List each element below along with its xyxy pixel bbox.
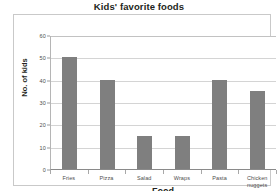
bar-slot [239, 36, 277, 169]
bar-chart: Kids' favorite foods No. of kids 0102030… [0, 0, 278, 191]
chart-title: Kids' favorite foods [0, 1, 278, 13]
bar [250, 91, 265, 169]
bar-slot [126, 36, 164, 169]
x-axis-tickmark [125, 170, 126, 174]
bar-slot [201, 36, 239, 169]
bar [137, 136, 152, 170]
bar [212, 80, 227, 169]
y-axis-tick-label: 10 [39, 145, 46, 151]
x-axis-tickmark [201, 170, 202, 174]
y-axis-tick-label: 60 [39, 33, 46, 39]
bar-slot [51, 36, 89, 169]
bar-slot [164, 36, 202, 169]
plot-area [50, 36, 276, 170]
chart-plot-frame: No. of kids 0102030405060 FriesPizzaSala… [13, 14, 271, 186]
y-axis-tick-labels: 0102030405060 [14, 15, 50, 185]
x-axis-tickmark [88, 170, 89, 174]
y-axis-tick-label: 40 [39, 78, 46, 84]
x-axis-tickmark [163, 170, 164, 174]
x-axis-tickmark [276, 170, 277, 174]
x-axis-tickmark [238, 170, 239, 174]
bar [62, 57, 77, 169]
x-axis-tickmarks [50, 170, 276, 174]
y-axis-tick-label: 30 [39, 100, 46, 106]
bar-series [51, 36, 276, 169]
y-axis-tick-label: 0 [43, 167, 46, 173]
x-axis-tickmark [50, 170, 51, 174]
bar [100, 80, 115, 169]
x-axis-title: Food [50, 186, 276, 191]
bar-slot [89, 36, 127, 169]
y-axis-tick-label: 20 [39, 122, 46, 128]
y-axis-tick-label: 50 [39, 55, 46, 61]
bar [175, 136, 190, 170]
